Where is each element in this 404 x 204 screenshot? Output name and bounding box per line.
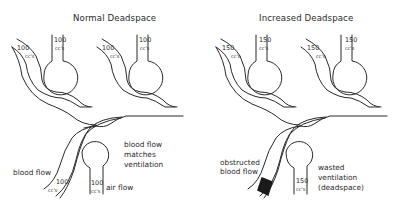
vessel-volume-unit: cc's [231, 54, 240, 59]
match-label-line2: matches [124, 150, 156, 159]
increased-deadspace-title: Increased Deadspace [259, 14, 353, 23]
wasted-label-line1: wasted [318, 163, 345, 172]
vessel-volume-unit: cc's [110, 54, 119, 59]
vessel-volume-value: 100 [17, 45, 29, 51]
bottom-vessel-volume-unit: cc's [48, 188, 57, 193]
obstruction-block [258, 178, 272, 195]
alveolus-volume-value: 100 [54, 37, 66, 43]
alveolus-volume-unit: cc's [140, 46, 149, 51]
obstructed-label-line1: obstructed [220, 158, 260, 167]
vessel-volume-unit: cc's [25, 54, 34, 59]
alveolus-volume-value: 150 [345, 37, 357, 43]
alveolus-volume-unit: cc's [55, 46, 64, 51]
obstructed-label-line2: blood flow [220, 167, 258, 176]
alveolus-volume-value: 100 [139, 37, 151, 43]
bottom-alveolus-volume-unit: cc's [296, 187, 305, 192]
air-flow-label: air flow [106, 183, 133, 192]
bottom-alveolus-volume-value: 150 [296, 178, 308, 184]
alveolus-volume-value: 150 [259, 37, 271, 43]
vessel-volume-value: 150 [307, 45, 319, 51]
deadspace-diagram: Normal Deadspace 100 cc's 100 cc's 100 c… [0, 0, 404, 204]
bottom-alveolus-volume-unit: cc's [91, 189, 100, 194]
vessel-volume-value: 100 [102, 45, 114, 51]
match-label-line1: blood flow [124, 140, 162, 149]
wasted-label-line2: ventilation [318, 173, 357, 182]
vessel-volume-value: 150 [222, 45, 234, 51]
normal-deadspace-title: Normal Deadspace [73, 14, 156, 23]
bottom-alveolus-volume-value: 100 [91, 180, 103, 186]
vessel-volume-unit: cc's [316, 54, 325, 59]
wasted-label-line3: (deadspace) [318, 183, 364, 192]
alveolus-volume-unit: cc's [259, 46, 268, 51]
bottom-vessel-volume-value: 100 [56, 179, 68, 185]
blood-flow-label: blood flow [13, 168, 51, 177]
match-label-line3: ventilation [124, 160, 163, 169]
alveolus-volume-unit: cc's [345, 46, 354, 51]
